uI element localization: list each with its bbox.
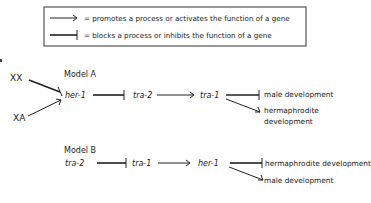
tra2-blocks-tra1-arrow [97, 158, 126, 168]
tra2-promotes-tra1-arrow [157, 92, 194, 98]
outcome-male-a: male development [264, 90, 334, 99]
her1-blocks-herm-arrow [230, 158, 262, 168]
her1-promotes-male-arrow [229, 167, 263, 180]
gene-tra1-a: tra-1 [200, 91, 219, 100]
legend-blocks-text: = blocks a process or inhibits the funct… [84, 31, 272, 40]
outcome-male-b: male development [264, 176, 334, 185]
genetic-pathway-diagram: = promotes a process or activates the fu… [0, 0, 371, 203]
legend: = promotes a process or activates the fu… [44, 7, 306, 46]
input-xa: XA [13, 113, 26, 123]
gene-her1-a: her-1 [65, 91, 86, 100]
model-b: Model B tra-2 tra-1 her-1 hermaphrodite … [64, 146, 371, 185]
model-a-title: Model A [64, 70, 97, 79]
model-a: Model A XX XA her-1 tra-2 tra-1 male dev… [10, 70, 334, 126]
gene-tra2-a: tra-2 [133, 91, 152, 100]
outcome-herm-a-line1: hermaphrodite [264, 106, 319, 115]
gene-tra2-b: tra-2 [65, 159, 84, 168]
tra1-promotes-her1-arrow [158, 160, 190, 166]
tra1-blocks-male-arrow [226, 90, 259, 100]
xx-blocks-her1-arrow [29, 80, 62, 96]
xa-promotes-her1-arrow [28, 99, 61, 116]
figure-marker [0, 59, 2, 62]
gene-tra1-b: tra-1 [132, 159, 151, 168]
model-b-title: Model B [64, 146, 96, 155]
legend-box [44, 7, 306, 46]
legend-promotes-text: = promotes a process or activates the fu… [84, 14, 290, 23]
her1-blocks-tra2-arrow [93, 90, 124, 100]
input-xx: XX [10, 73, 22, 83]
tra1-promotes-herm-arrow [226, 99, 260, 112]
gene-her1-b: her-1 [198, 159, 219, 168]
outcome-herm-a-line2: development [264, 117, 313, 126]
outcome-herm-b: hermaphrodite development [265, 159, 371, 168]
